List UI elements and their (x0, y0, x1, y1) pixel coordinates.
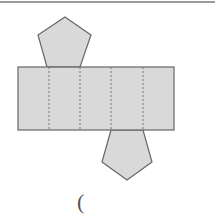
lateral-faces-rectangle (18, 67, 174, 130)
prism-net-diagram (0, 0, 215, 223)
answer-parenthesis: ( (77, 191, 84, 213)
bottom-pentagon-face (102, 130, 152, 180)
top-pentagon-face (38, 17, 91, 67)
